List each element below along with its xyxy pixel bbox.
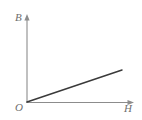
bh-curve-figure: B O H bbox=[0, 0, 142, 120]
origin-label: O bbox=[15, 102, 23, 113]
bh-data-line bbox=[27, 70, 122, 102]
y-axis-arrow-icon bbox=[24, 14, 29, 21]
y-axis-label: B bbox=[15, 12, 22, 23]
x-axis-label: H bbox=[124, 103, 132, 114]
